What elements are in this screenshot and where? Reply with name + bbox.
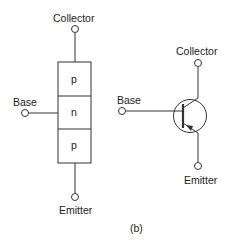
symbol-collector-label: Collector (176, 45, 217, 57)
emitter-terminal-icon (72, 194, 79, 201)
layer-p-bottom: p (71, 139, 77, 151)
figure-caption: (b) (130, 222, 143, 234)
diagram-canvas (0, 0, 232, 243)
layer-p-top: p (71, 73, 77, 85)
symbol-base-label: Base (117, 94, 141, 106)
collector-label: Collector (53, 12, 94, 24)
collector-terminal-icon (72, 26, 79, 33)
base-label: Base (13, 96, 37, 108)
emitter-label: Emitter (59, 204, 92, 216)
symbol-base-terminal-icon (119, 108, 126, 115)
layer-n: n (71, 106, 77, 118)
symbol-collector-terminal-icon (195, 60, 202, 67)
symbol-emitter-terminal-icon (195, 163, 202, 170)
base-terminal-icon (22, 110, 29, 117)
symbol-emitter-label: Emitter (184, 174, 217, 186)
pnp-transistor-symbol-icon (126, 67, 207, 162)
